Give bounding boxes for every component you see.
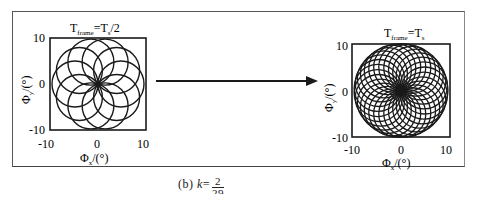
- rose-circle: [98, 61, 144, 107]
- right-panel: Tframe=Ts 10 0 -10 -10 0 10 Φx/(°) Φy/(°…: [322, 26, 452, 172]
- caption-label: (b): [178, 177, 194, 191]
- right-rose-pattern: [354, 44, 448, 138]
- left-xtick-mid: 0: [94, 137, 100, 151]
- right-xtick-right: 10: [440, 143, 452, 157]
- right-xtick-mid: 0: [398, 143, 404, 157]
- left-xtick-right: 10: [137, 137, 149, 151]
- right-xtick-left: -10: [344, 143, 360, 157]
- left-xtick-left: -10: [38, 137, 54, 151]
- left-ylabel: Φy/(°): [19, 76, 35, 104]
- rose-circle: [52, 61, 98, 107]
- right-ytick-top: 10: [336, 39, 348, 53]
- left-title: Tframe=Ts/2: [70, 21, 120, 37]
- caption-eq: =: [203, 177, 210, 191]
- caption-denominator: 29: [212, 188, 224, 194]
- left-ytick-mid: 0: [39, 77, 45, 91]
- left-ytick-bottom: -10: [29, 123, 45, 137]
- left-ytick-top: 10: [33, 31, 45, 45]
- left-panel: Tframe=Ts/2 10 0 -10 -10 0 10 Φx/(°) Φy/…: [19, 21, 149, 167]
- right-ylabel: Φy/(°): [322, 84, 338, 112]
- right-ytick-mid: 0: [342, 85, 348, 99]
- right-arrow-icon: [156, 76, 318, 86]
- caption-fraction: 229: [212, 176, 224, 194]
- right-xlabel: Φx/(°): [382, 156, 410, 172]
- caption-numerator: 2: [212, 176, 224, 188]
- left-rose-pattern: [52, 39, 144, 129]
- right-title: Tframe=Ts: [384, 26, 425, 42]
- left-xlabel: Φx/(°): [80, 151, 108, 167]
- figure-caption: (b) k=229: [178, 176, 224, 194]
- figure-svg: Tframe=Ts/2 10 0 -10 -10 0 10 Φx/(°) Φy/…: [0, 0, 478, 198]
